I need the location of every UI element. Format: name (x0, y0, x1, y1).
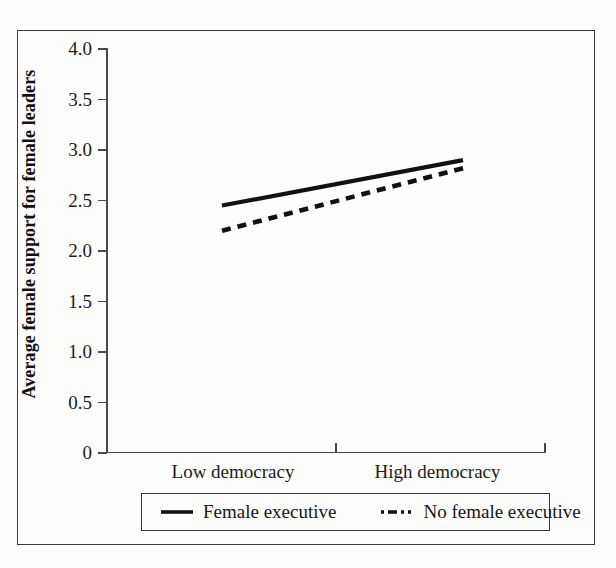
y-tick-4-0 (98, 48, 107, 50)
plot-area: Average female support for female leader… (0, 0, 616, 568)
y-tick-label-2-0: 2.0 (46, 240, 92, 262)
y-tick-1-5 (98, 301, 107, 303)
legend-box: Female executive No female executive (141, 493, 550, 531)
series-line-no-female-executive (222, 168, 463, 231)
y-tick-3-0 (98, 149, 107, 151)
y-tick-label-0: 0 (46, 442, 92, 464)
y-tick-label-1-0: 1.0 (46, 341, 92, 363)
legend-swatch-dashed-line-icon (380, 505, 414, 519)
chart-page: Average female support for female leader… (0, 0, 616, 568)
y-tick-label-2-5: 2.5 (46, 190, 92, 212)
legend-item-no-female-executive: No female executive (380, 501, 580, 523)
x-tick-left (106, 443, 108, 452)
y-tick-0 (98, 452, 107, 454)
x-axis-line (106, 452, 546, 454)
legend-label-female-executive: Female executive (203, 501, 336, 523)
y-tick-2-0 (98, 250, 107, 252)
x-tick-label-low-democracy: Low democracy (128, 461, 338, 483)
y-tick-label-3-5: 3.5 (46, 89, 92, 111)
legend-label-no-female-executive: No female executive (423, 501, 580, 523)
series-line-female-executive (222, 160, 463, 205)
x-tick-right (544, 443, 546, 452)
legend-item-female-executive: Female executive (160, 501, 336, 523)
y-tick-label-4-0: 4.0 (46, 38, 92, 60)
y-tick-label-3-0: 3.0 (46, 139, 92, 161)
x-tick-label-high-democracy: High democracy (330, 461, 545, 483)
y-axis-title: Average female support for female leader… (19, 99, 40, 399)
y-tick-label-0-5: 0.5 (46, 392, 92, 414)
y-tick-1-0 (98, 351, 107, 353)
x-tick-center (335, 443, 337, 452)
y-tick-2-5 (98, 200, 107, 202)
legend-swatch-solid-line-icon (160, 505, 194, 519)
y-tick-3-5 (98, 99, 107, 101)
y-tick-label-1-5: 1.5 (46, 291, 92, 313)
y-tick-0-5 (98, 402, 107, 404)
